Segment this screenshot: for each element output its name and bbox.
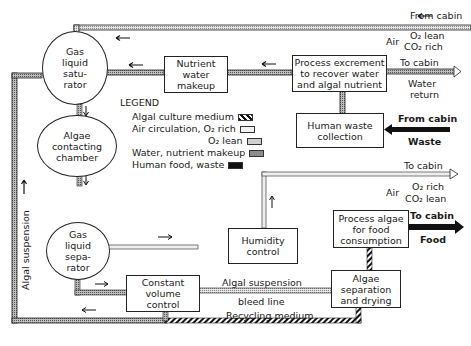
node-label: Gas [62, 46, 88, 57]
water-return-label: Water [408, 78, 436, 89]
legend-title: LEGEND [120, 97, 159, 108]
waste-label: Waste [408, 136, 441, 147]
o2-rich-label: O₂ rich [412, 181, 444, 192]
node-label: Algae [340, 273, 391, 284]
constant-volume-control-box: Constantvolumecontrol [126, 275, 200, 312]
gas-liquid-saturator: Gasliquidsatu-rator [42, 31, 108, 105]
algae-separation-box: Algaeseparationand drying [331, 270, 401, 308]
to-cabin-food-label: To cabin [410, 210, 454, 221]
human-waste-collection-box: Human wastecollection [296, 113, 384, 148]
node-label: Human waste [307, 120, 372, 131]
algae-contacting-chamber: Algaecontactingchamber [37, 115, 117, 177]
process-excrement-box: Process excrementto recover waterand alg… [292, 55, 387, 92]
node-label: sepa- [65, 251, 91, 262]
node-label: Process excrement [295, 57, 385, 68]
to-cabin-water-label: To cabin [400, 57, 439, 68]
node-label: liquid [62, 57, 88, 68]
nutrient-water-makeup-box: Nutrientwatermakeup [164, 56, 228, 93]
water-return-label-2: return [410, 89, 439, 100]
o2-lean-label: O₂ lean [410, 30, 445, 41]
node-label: Humidity [241, 235, 284, 246]
air-label-mid: Air [386, 187, 399, 198]
recycling-medium-label: Recycling medium [226, 310, 313, 321]
node-label: collection [307, 131, 372, 142]
humidity-control-box: Humiditycontrol [228, 228, 298, 264]
from-cabin-waste-label: From cabin [398, 113, 457, 124]
node-label: water [177, 69, 216, 80]
bleed-line-label: bleed line [238, 296, 285, 307]
food-label: Food [420, 234, 446, 245]
to-cabin-air-label: To cabin [404, 160, 443, 171]
dotted-swatch-icon [247, 138, 262, 145]
legend-item-air-lean: O₂ lean [208, 135, 262, 146]
node-label: chamber [52, 152, 102, 163]
node-label: Algae [52, 130, 102, 141]
algal-suspension-bleed-label: Algal suspension [222, 277, 302, 288]
node-label: and algal nutrient [295, 79, 385, 90]
process-algae-box: Process algaefor foodconsumption [333, 210, 409, 248]
air-label-top: Air [386, 36, 399, 47]
legend-item-air-rich: Air circulation, O₂ rich [132, 123, 255, 134]
node-label: Process algae [338, 213, 403, 224]
node-label: makeup [177, 80, 216, 91]
node-label: control [142, 299, 185, 310]
algal-suspension-side-label: Algal suspension [20, 210, 31, 290]
node-label: and drying [340, 295, 391, 306]
gas-liquid-separator: Gasliquidsepa-rator [46, 222, 110, 280]
co2-rich-label: CO₂ rich [404, 41, 443, 52]
legend-label: Algal culture medium [132, 111, 234, 122]
node-label: control [241, 246, 284, 257]
node-label: satu- [62, 68, 88, 79]
legend-item-algal: Algal culture medium [132, 111, 253, 122]
node-label: contacting [52, 141, 102, 152]
node-label: rator [62, 79, 88, 90]
node-label: for food [338, 224, 403, 235]
gray-swatch-icon [249, 150, 264, 157]
hatched-swatch-icon [238, 114, 253, 121]
light-swatch-icon [240, 126, 255, 133]
node-label: Nutrient [177, 58, 216, 69]
node-label: consumption [338, 235, 403, 246]
node-label: to recover water [295, 68, 385, 79]
legend-item-food-waste: Human food, waste [132, 159, 243, 170]
legend-label: Water, nutrient makeup [132, 147, 245, 158]
node-label: Constant [142, 277, 185, 288]
legend-label: Human food, waste [132, 159, 224, 170]
co2-lean-label: CO₂ lean [405, 193, 446, 204]
legend-label: Air circulation, O₂ rich [132, 123, 236, 134]
node-label: liquid [65, 240, 91, 251]
node-label: rator [65, 262, 91, 273]
legend-label: O₂ lean [208, 135, 243, 146]
node-label: volume [142, 288, 185, 299]
legend-item-water: Water, nutrient makeup [132, 147, 264, 158]
from-cabin-air-label: From cabin [410, 10, 462, 21]
node-label: Gas [65, 229, 91, 240]
black-swatch-icon [228, 162, 243, 169]
node-label: separation [340, 284, 391, 295]
